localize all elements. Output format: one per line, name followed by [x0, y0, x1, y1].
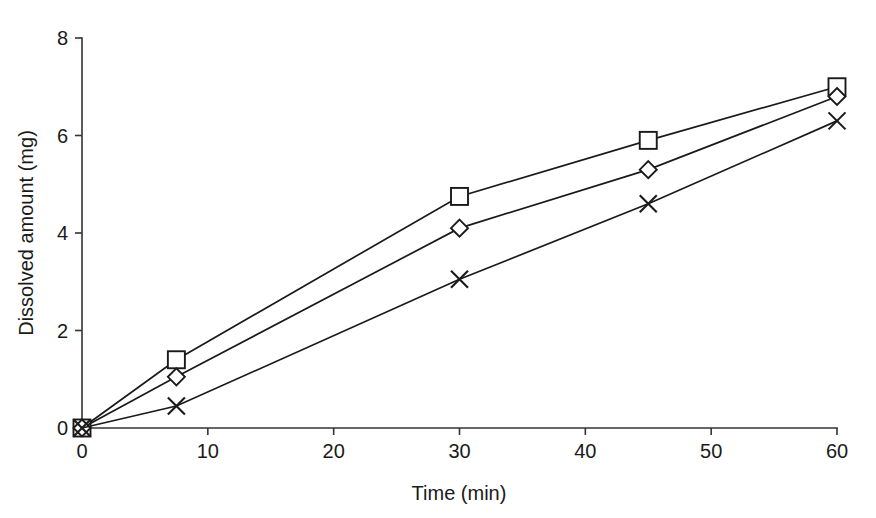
marker-square — [451, 188, 468, 205]
y-axis-title: Dissolved amount (mg) — [15, 130, 37, 336]
caption-sliver — [0, 511, 876, 518]
figure-container: 02468 0102030405060 Time (min) Dissolved… — [0, 0, 876, 518]
line-chart: 02468 0102030405060 Time (min) Dissolved… — [0, 0, 876, 518]
y-tick-label: 2 — [57, 320, 68, 342]
y-tick-label: 0 — [57, 417, 68, 439]
x-tick-label: 0 — [76, 440, 87, 462]
x-tick-label: 20 — [323, 440, 345, 462]
x-axis-title: Time (min) — [412, 482, 507, 504]
marker-square — [640, 132, 657, 149]
x-tick-label: 50 — [700, 440, 722, 462]
marker-square — [168, 351, 185, 368]
x-tick-label: 60 — [826, 440, 848, 462]
x-tick-label: 10 — [197, 440, 219, 462]
x-tick-label: 40 — [574, 440, 596, 462]
chart-background — [0, 0, 876, 518]
y-tick-label: 8 — [57, 27, 68, 49]
y-tick-label: 4 — [57, 222, 68, 244]
y-tick-label: 6 — [57, 125, 68, 147]
x-tick-label: 30 — [448, 440, 470, 462]
